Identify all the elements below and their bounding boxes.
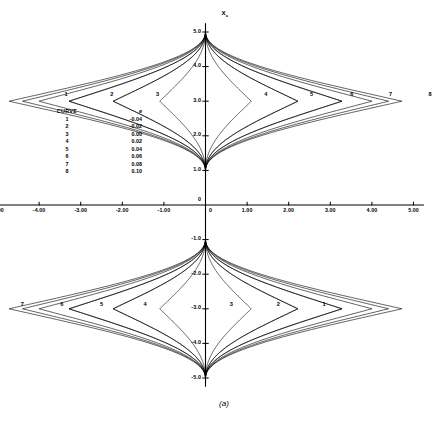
- x-axis-tick-label: -4.00: [33, 208, 46, 213]
- legend-curve-number: 2: [52, 123, 82, 131]
- x-axis-tick-label-0: 0: [209, 208, 212, 213]
- plot-canvas: [0, 0, 448, 421]
- x-axis-tick-label: 5.00: [408, 208, 419, 213]
- legend-curve-value: 0.04: [82, 146, 142, 154]
- curve-label-upper-3: 3: [156, 92, 159, 98]
- legend-row: 6 0.06: [52, 153, 142, 161]
- y-axis-tick-label: -5.0: [191, 375, 201, 380]
- curve-label-lower-2: 2: [277, 302, 280, 308]
- legend-curve-number: 3: [52, 131, 82, 139]
- legend-curve-value: -0.02: [82, 123, 142, 131]
- legend-row: 7 0.08: [52, 161, 142, 169]
- curve-label-lower-6: 6: [60, 302, 63, 308]
- curve-label-lower-1: 1: [322, 302, 325, 308]
- curve-label-upper-1: 1: [65, 92, 68, 98]
- legend-header-row: CURVE e: [52, 108, 142, 116]
- x-axis-tick-label: 1.00: [242, 208, 253, 213]
- figure-plot: CURVE e 1 -0.04 2 -0.02 3 0.00 4 0.02 5 …: [0, 0, 448, 421]
- y-axis-tick-label: -2.0: [191, 271, 201, 276]
- y-axis-tick-label: -1.0: [191, 236, 201, 241]
- figure-caption: (a): [0, 399, 448, 408]
- curve-label-lower-7: 7: [21, 302, 24, 308]
- legend-curve-number: 6: [52, 153, 82, 161]
- legend-row: 4 0.02: [52, 138, 142, 146]
- legend-curve-number: 4: [52, 138, 82, 146]
- curve-label-lower-3: 3: [230, 302, 233, 308]
- legend-row: 5 0.04: [52, 146, 142, 154]
- x-axis-tick-label: -2.00: [116, 208, 129, 213]
- y-axis-tick-label: 3.0: [193, 98, 201, 103]
- y-axis-tick-label: 5.0: [193, 29, 201, 34]
- x-axis-tick-label: -5.00: [0, 208, 4, 213]
- legend-curve-number: 8: [52, 168, 82, 176]
- x-axis-tick-label: 4.00: [367, 208, 378, 213]
- x-axis-tick-label: 2.00: [283, 208, 294, 213]
- legend-curve-value: 0.02: [82, 138, 142, 146]
- legend-curve-number: 5: [52, 146, 82, 154]
- legend-row: 8 0.10: [52, 168, 142, 176]
- legend-curve-value: 0.08: [82, 161, 142, 169]
- legend-curve-value: -0.04: [82, 116, 142, 124]
- x-axis-tick-label: -1.00: [158, 208, 171, 213]
- legend-curve-value: 0.06: [82, 153, 142, 161]
- legend-header-curve: CURVE: [52, 108, 82, 116]
- curve-label-upper-8: 8: [429, 92, 432, 98]
- legend-row: 1 -0.04: [52, 116, 142, 124]
- y-axis-tick-label: -4.0: [191, 340, 201, 345]
- legend-curve-number: 1: [52, 116, 82, 124]
- curve-label-lower-5: 5: [100, 302, 103, 308]
- legend-row: 3 0.00: [52, 131, 142, 139]
- legend-curve-value: 0.10: [82, 168, 142, 176]
- y-axis-tick-label: 1.0: [193, 167, 201, 172]
- y-axis-tick-label: -3.0: [191, 305, 201, 310]
- legend-table: CURVE e 1 -0.04 2 -0.02 3 0.00 4 0.02 5 …: [52, 108, 142, 176]
- y-axis-tick-label: 2.0: [193, 132, 201, 137]
- x-axis-tick-label: -3.00: [74, 208, 87, 213]
- legend-grid: CURVE e 1 -0.04 2 -0.02 3 0.00 4 0.02 5 …: [52, 108, 142, 176]
- curve-label-upper-6: 6: [350, 92, 353, 98]
- curve-label-upper-4: 4: [264, 92, 267, 98]
- curve-label-upper-5: 5: [310, 92, 313, 98]
- x-axis-tick-label: 3.00: [325, 208, 336, 213]
- y-axis-title: Xc: [222, 10, 229, 19]
- y-axis-title-sub: c: [226, 13, 229, 18]
- legend-header-symbol: e: [82, 108, 142, 116]
- legend-curve-number: 7: [52, 161, 82, 169]
- curve-label-upper-7: 7: [389, 92, 392, 98]
- legend-curve-value: 0.00: [82, 131, 142, 139]
- legend-row: 2 -0.02: [52, 123, 142, 131]
- curve-label-upper-2: 2: [110, 92, 113, 98]
- y-axis-tick-label: 4.0: [193, 63, 201, 68]
- curve-label-lower-4: 4: [144, 302, 147, 308]
- y-axis-origin-label: 0: [198, 197, 201, 202]
